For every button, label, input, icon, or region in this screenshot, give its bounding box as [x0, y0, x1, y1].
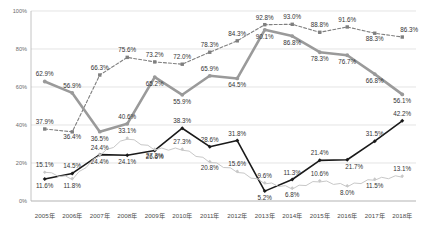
data-point-marker [400, 93, 404, 97]
data-point-marker [153, 60, 156, 63]
series-series-black-solid: 11.6%14.5%24.4%24.1%26.6%38.3%28.6%31.8%… [36, 110, 412, 201]
data-point-marker [98, 73, 101, 76]
x-axis-tick-label: 2012年 [227, 212, 247, 220]
data-point-label: 28.6% [201, 136, 219, 143]
data-point-label: 92.8% [256, 14, 274, 21]
data-point-label: 6.8% [285, 191, 300, 198]
data-point-label: 10.6% [311, 170, 329, 177]
data-point-marker [235, 77, 239, 81]
data-point-label: 88.8% [311, 21, 329, 28]
data-point-label: 31.5% [366, 130, 384, 137]
series-series-gray-solid: 62.9%56.9%36.5%40.6%65.2%55.9%65.9%64.5%… [36, 28, 412, 142]
data-point-label: 40.6% [118, 113, 136, 120]
data-point-label: 93.0% [283, 13, 301, 20]
x-axis-tick-label: 2005年 [35, 212, 55, 220]
data-point-marker [346, 25, 349, 28]
data-point-label: 36.5% [91, 135, 109, 142]
data-point-marker [236, 39, 239, 42]
data-point-label: 9.6% [258, 172, 273, 179]
data-point-marker [126, 56, 129, 59]
data-point-marker [125, 153, 129, 157]
chart-container: 100%80%60%40%20%0%2005年2006年2007年2008年20… [0, 0, 422, 229]
data-point-marker [43, 171, 47, 175]
data-point-label: 86.3% [400, 26, 418, 33]
x-axis-tick-label: 2006年 [62, 212, 82, 220]
data-point-label: 90.1% [256, 33, 274, 40]
x-axis-tick-label: 2017年 [365, 212, 385, 220]
x-axis-tick-label: 2016年 [337, 212, 357, 220]
data-point-marker [290, 186, 294, 190]
data-point-label: 56.9% [63, 82, 81, 89]
data-point-marker [291, 23, 294, 26]
data-point-marker [180, 93, 184, 97]
data-point-marker [318, 31, 321, 34]
data-point-label: 11.3% [284, 169, 302, 176]
x-axis-tick-label: 2013年 [255, 212, 275, 220]
data-point-marker [263, 28, 267, 32]
data-point-label: 56.1% [393, 97, 411, 104]
data-point-label: 72.0% [173, 53, 191, 60]
data-point-label: 15.6% [228, 160, 246, 167]
data-point-marker [43, 80, 47, 84]
data-point-label: 42.2% [393, 110, 411, 117]
data-point-label: 75.6% [118, 46, 136, 53]
data-point-marker [43, 177, 47, 181]
data-point-marker [208, 51, 211, 54]
data-point-label: 76.7% [338, 58, 356, 65]
data-point-label: 66.8% [366, 77, 384, 84]
data-point-label: 21.4% [311, 149, 329, 156]
data-point-label: 78.3% [311, 55, 329, 62]
data-point-marker [208, 74, 212, 78]
data-point-label: 24.1% [118, 158, 136, 165]
series-line [45, 30, 403, 132]
data-point-label: 15.1% [36, 161, 54, 168]
data-point-label: 91.6% [338, 16, 356, 23]
data-point-label: 65.2% [146, 80, 164, 87]
data-point-label: 21.7% [345, 163, 363, 170]
data-point-marker [263, 23, 266, 26]
data-point-label: 66.3% [91, 64, 109, 71]
data-point-marker [43, 127, 46, 130]
x-axis-tick-label: 2014年 [282, 212, 302, 220]
data-point-marker [70, 91, 74, 95]
data-point-marker [345, 184, 349, 188]
data-point-label: 27.3% [173, 138, 191, 145]
data-point-marker [345, 53, 349, 57]
data-point-marker [153, 75, 157, 79]
data-point-label: 31.8% [228, 130, 246, 137]
y-axis-tick-label: 20% [16, 160, 27, 166]
data-point-label: 88.3% [366, 35, 384, 42]
data-point-label: 38.3% [173, 117, 191, 124]
data-point-label: 11.6% [36, 182, 54, 189]
data-point-marker [70, 177, 74, 181]
line-chart: 100%80%60%40%20%0%2005年2006年2007年2008年20… [0, 0, 422, 229]
data-point-label: 13.1% [393, 165, 411, 172]
data-point-marker [125, 122, 129, 126]
data-point-label: 36.4% [63, 133, 81, 140]
data-point-label: 5.2% [258, 194, 273, 201]
data-point-marker [373, 72, 377, 76]
x-axis-tick-label: 2018年 [392, 212, 412, 220]
data-point-label: 62.9% [36, 70, 54, 77]
y-axis-tick-label: 40% [16, 122, 27, 128]
data-point-label: 8.0% [340, 189, 355, 196]
data-point-label: 24.4% [91, 144, 109, 151]
x-axis-tick-label: 2008年 [117, 212, 137, 220]
data-point-label: 65.9% [201, 65, 219, 72]
data-point-label: 20.8% [201, 164, 219, 171]
data-point-label: 64.5% [228, 81, 246, 88]
y-axis-tick-label: 80% [16, 46, 27, 52]
x-axis-tick-label: 2007年 [90, 212, 110, 220]
data-point-marker [290, 34, 294, 38]
y-axis-tick-label: 100% [13, 8, 27, 14]
data-point-label: 14.5% [63, 162, 81, 169]
data-point-label: 33.1% [118, 127, 136, 134]
data-point-label: 11.8% [64, 182, 82, 189]
data-point-label: 73.2% [146, 51, 164, 58]
y-axis-tick-label: 0% [19, 198, 27, 204]
data-point-marker [401, 35, 404, 38]
data-point-label: 55.9% [173, 98, 191, 105]
data-point-label: 37.9% [36, 118, 54, 125]
x-axis-tick-label: 2015年 [310, 212, 330, 220]
x-axis-tick-label: 2009年 [145, 212, 165, 220]
